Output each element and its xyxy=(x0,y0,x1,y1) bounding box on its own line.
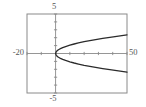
y-max-label: 5 xyxy=(48,2,60,11)
x-min-label: -20 xyxy=(4,48,24,57)
curve-lower-branch xyxy=(56,54,127,73)
plot-figure: 5 -5 -20 50 xyxy=(0,0,146,107)
y-min-label: -5 xyxy=(45,94,61,103)
x-max-label: 50 xyxy=(129,48,145,57)
curve-upper-branch xyxy=(56,35,127,54)
